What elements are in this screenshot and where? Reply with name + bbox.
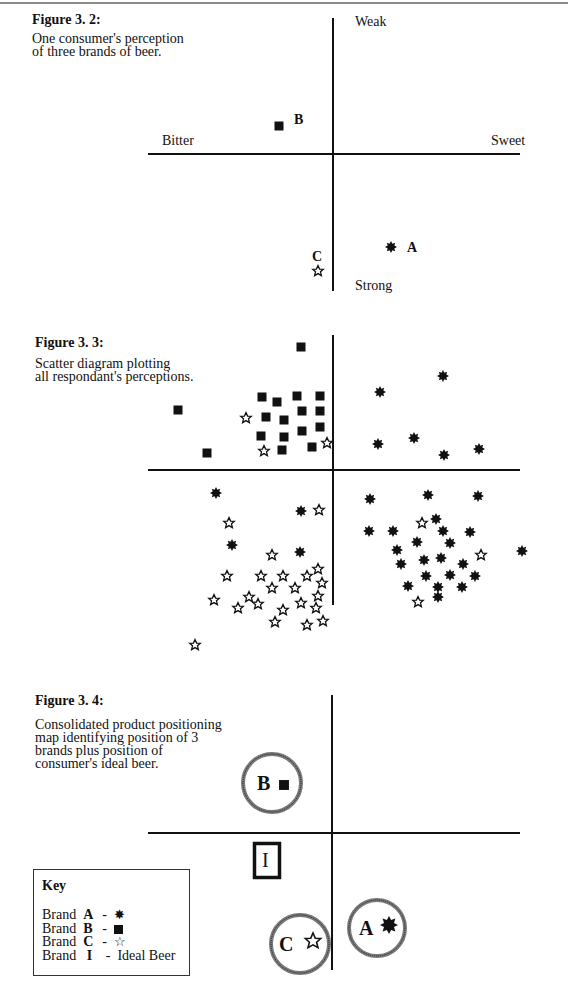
star-icon — [278, 605, 289, 615]
fig32-label-weak: Weak — [355, 14, 387, 29]
legend-prefix: Brand — [42, 948, 76, 963]
fig33-points — [174, 343, 529, 650]
star-icon — [314, 505, 325, 515]
star-icon — [267, 583, 278, 593]
asterisk-icon — [469, 570, 481, 582]
square-icon — [280, 416, 289, 425]
legend-row-brand-a: Brand A - ✸ — [42, 908, 189, 922]
star-icon — [313, 564, 324, 574]
asterisk-icon — [374, 386, 386, 398]
asterisk-icon — [432, 591, 444, 603]
asterisk-icon — [380, 916, 398, 934]
star-icon — [253, 599, 264, 609]
square-icon — [280, 433, 289, 442]
star-icon — [302, 571, 313, 581]
star-icon — [302, 620, 313, 630]
asterisk-icon — [226, 539, 238, 551]
legend-sep: - — [106, 948, 111, 963]
star-icon — [313, 266, 324, 276]
star-icon — [224, 518, 235, 528]
asterisk-icon — [418, 554, 430, 566]
asterisk-icon — [210, 487, 222, 499]
asterisk-icon — [364, 493, 376, 505]
asterisk-icon — [402, 580, 414, 592]
square-icon — [316, 407, 325, 416]
legend-title: Key — [42, 878, 189, 894]
asterisk-icon — [411, 536, 423, 548]
asterisk-icon: ✸ — [114, 908, 126, 922]
square-icon — [273, 398, 282, 407]
asterisk-icon — [387, 525, 399, 537]
star-icon — [417, 518, 428, 528]
star-icon — [209, 595, 220, 605]
asterisk-icon — [516, 545, 528, 557]
star-icon — [322, 438, 333, 448]
star-icon — [311, 603, 322, 613]
legend-letter: B — [83, 922, 95, 936]
legend-row-brand-c: Brand C - ☆ — [42, 935, 189, 949]
asterisk-icon — [437, 525, 449, 537]
star-icon — [241, 413, 252, 423]
asterisk-icon — [444, 537, 456, 549]
star-icon — [290, 583, 301, 593]
asterisk-icon — [422, 489, 434, 501]
square-icon — [298, 407, 307, 416]
asterisk-icon — [395, 558, 407, 570]
square-icon — [174, 406, 183, 415]
square-icon — [316, 392, 325, 401]
star-icon — [413, 597, 424, 607]
square-icon — [297, 343, 306, 352]
star-icon — [270, 617, 281, 627]
asterisk-icon — [472, 490, 484, 502]
brand-c-label: C — [279, 933, 293, 955]
star-icon — [278, 571, 289, 581]
square-icon — [203, 449, 212, 458]
star-icon — [305, 933, 320, 948]
asterisk-icon — [430, 513, 442, 525]
square-icon — [114, 925, 123, 934]
brand-b-label: B — [257, 772, 270, 794]
asterisk-icon — [391, 544, 403, 556]
square-icon — [298, 427, 307, 436]
star-icon — [296, 598, 307, 608]
square-icon — [258, 393, 267, 402]
square-icon — [308, 443, 317, 452]
star-icon — [313, 591, 324, 601]
fig32-point-label-c: C — [312, 249, 322, 264]
legend-row-brand-b: Brand B - — [42, 922, 189, 936]
star-icon — [267, 550, 278, 560]
star-icon — [259, 446, 270, 456]
square-icon — [257, 432, 266, 441]
asterisk-icon — [385, 241, 397, 253]
square-icon — [262, 413, 271, 422]
asterisk-icon — [456, 581, 468, 593]
brand-b-position: B — [243, 754, 301, 812]
asterisk-icon — [437, 370, 449, 382]
diagram-canvas: Weak Strong Bitter Sweet ABC B I C — [0, 0, 568, 982]
ideal-beer-label: I — [262, 849, 269, 871]
square-icon — [275, 122, 284, 131]
asterisk-icon — [444, 569, 456, 581]
asterisk-icon — [372, 438, 384, 450]
star-icon — [476, 550, 487, 560]
fig32-points: ABC — [275, 112, 419, 276]
square-icon — [293, 392, 302, 401]
ideal-beer-position: I — [255, 844, 280, 878]
brand-a-ring — [349, 900, 405, 956]
legend-row-ideal: Brand I - Ideal Beer — [42, 949, 189, 963]
asterisk-icon — [294, 546, 306, 558]
star-icon — [318, 616, 329, 626]
asterisk-icon — [464, 526, 476, 538]
star-icon — [190, 640, 201, 650]
brand-a-position: A — [349, 900, 405, 956]
legend-ideal-text: Ideal Beer — [117, 948, 175, 963]
legend-letter: C — [83, 935, 95, 949]
star-icon: ☆ — [114, 935, 126, 949]
star-icon — [244, 592, 255, 602]
fig32-label-bitter: Bitter — [162, 133, 194, 148]
asterisk-icon — [438, 449, 450, 461]
asterisk-icon — [457, 558, 469, 570]
square-icon — [279, 780, 289, 790]
figure-3-3-plot — [148, 335, 528, 650]
asterisk-icon — [473, 443, 485, 455]
